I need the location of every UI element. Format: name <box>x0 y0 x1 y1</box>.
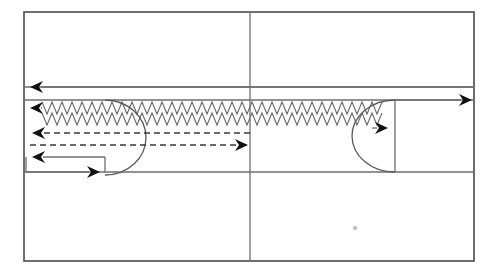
lower-dashed-forward-flow <box>30 139 248 151</box>
upper-left-inlet-arrowhead <box>30 102 43 114</box>
speck-mark <box>353 226 357 230</box>
schematic-svg <box>0 0 499 277</box>
outer-frame <box>24 12 474 261</box>
lower-dashed-forward-flow-arrowhead <box>235 139 248 151</box>
frame-group <box>24 12 474 261</box>
mark-group <box>353 226 357 230</box>
zigzag-group <box>42 102 382 125</box>
bottom-loop-forward-flow <box>26 166 100 178</box>
divider-group <box>24 12 474 261</box>
upper-dashed-return-flow <box>32 127 250 139</box>
right-chamber-inlet-arrowhead <box>372 122 388 134</box>
top-return-flow <box>30 81 474 93</box>
bottom-loop-return-flow <box>32 151 105 163</box>
upper-dashed-return-flow-arrowhead <box>32 127 45 139</box>
diagram-canvas <box>0 0 499 277</box>
outlet-flow <box>395 94 472 106</box>
zigzag-band-lower <box>42 113 382 125</box>
